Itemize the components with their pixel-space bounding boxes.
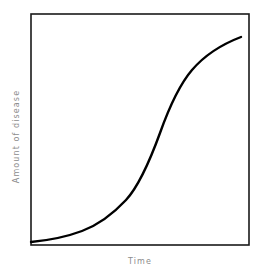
y-axis-label-text: Amount of disease (13, 89, 22, 182)
y-axis-label: Amount of disease (10, 88, 24, 184)
chart-figure: Amount of disease Time (0, 0, 263, 272)
x-axis-label: Time (31, 257, 249, 266)
chart-canvas (0, 0, 263, 272)
